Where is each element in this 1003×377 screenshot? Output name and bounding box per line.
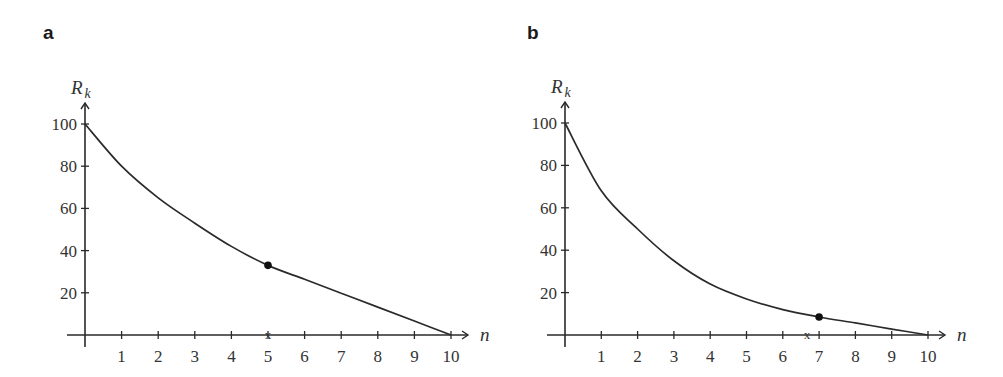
x-tick-label: 4 — [706, 347, 715, 366]
y-tick-label: 40 — [540, 241, 557, 260]
x-tick-label: 6 — [779, 347, 788, 366]
x-tick-label: 1 — [597, 347, 606, 366]
x-tick-label: 5 — [742, 347, 751, 366]
y-tick-label: 80 — [60, 157, 77, 176]
y-axis-title-subscript: k — [565, 85, 572, 100]
x-tick-label: 9 — [887, 347, 896, 366]
charts-canvas: 1234567891020406080100nRkx 1234567891020… — [0, 0, 1003, 377]
x-tick-label: 2 — [154, 347, 163, 366]
x-axis-title: n — [957, 324, 967, 345]
x-tick-label: 8 — [851, 347, 860, 366]
x-tick-label: 8 — [374, 347, 383, 366]
x-tick-label: 2 — [633, 347, 642, 366]
series-line — [85, 124, 451, 335]
y-tick-label: 80 — [540, 156, 557, 175]
x-tick-label: 10 — [443, 347, 460, 366]
y-tick-label: 100 — [52, 115, 78, 134]
x-tick-label: 5 — [264, 347, 273, 366]
x-tick-label: 6 — [300, 347, 309, 366]
x-tick-label: 4 — [227, 347, 236, 366]
chart-b: 1234567891020406080100nRkx — [532, 76, 967, 366]
y-axis-title-subscript: k — [85, 86, 92, 101]
y-tick-label: 20 — [540, 284, 557, 303]
y-axis-title: Rk — [70, 77, 92, 101]
y-tick-label: 40 — [60, 242, 77, 261]
y-tick-label: 60 — [60, 199, 77, 218]
y-tick-label: 20 — [60, 284, 77, 303]
x-axis-title: n — [480, 324, 490, 345]
series-line — [565, 123, 928, 335]
x-tick-label: 7 — [815, 347, 824, 366]
highlight-point — [264, 262, 272, 270]
x-tick-label: 9 — [410, 347, 419, 366]
x-tick-label: 10 — [920, 347, 937, 366]
x-tick-label: 3 — [670, 347, 679, 366]
chart-a: 1234567891020406080100nRkx — [52, 77, 490, 366]
x-tick-label: 7 — [337, 347, 346, 366]
y-axis-title: Rk — [550, 76, 572, 100]
y-tick-label: 100 — [532, 114, 558, 133]
y-tick-label: 60 — [540, 199, 557, 218]
axis-marker-x: x — [804, 327, 811, 342]
x-tick-label: 1 — [117, 347, 126, 366]
highlight-point — [815, 313, 823, 321]
x-tick-label: 3 — [191, 347, 200, 366]
axis-marker-x: x — [265, 327, 272, 342]
